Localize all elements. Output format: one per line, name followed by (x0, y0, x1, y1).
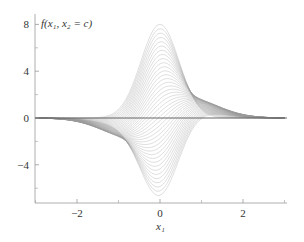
series-curve (36, 112, 285, 183)
series-curve (36, 114, 285, 195)
series-curve (36, 103, 285, 142)
chart-title: f(x₁, x₂ = c) (41, 17, 92, 30)
y-tick-label: 4 (24, 65, 30, 77)
series-curve (36, 59, 285, 125)
series-curve (36, 33, 285, 119)
series-curve (36, 24, 285, 118)
y-tick-label: 0 (24, 112, 30, 124)
y-tick-label: −4 (17, 159, 29, 171)
series-curve (36, 113, 285, 187)
series-curve (36, 29, 285, 119)
series-curve (36, 55, 285, 124)
series-curve (36, 89, 285, 132)
series-curve (36, 106, 285, 155)
series-curve (36, 86, 285, 131)
series-curve (36, 82, 285, 130)
x-tick-label: 2 (240, 207, 246, 219)
x-axis-label: x₁ (155, 220, 165, 232)
series-curve (36, 79, 285, 130)
series-curve (36, 92, 285, 133)
series-curve (36, 95, 285, 134)
series-curve (36, 104, 285, 148)
x-tick-label: 0 (157, 207, 163, 219)
series-curve (36, 107, 285, 159)
series-curve (36, 111, 285, 179)
axes (35, 14, 287, 203)
curve-family (36, 24, 285, 195)
x-tick-label: −2 (71, 207, 83, 219)
y-tick-label: 8 (24, 18, 30, 30)
chart: −202−4048 f(x₁, x₂ = c) x₁ (0, 0, 304, 242)
series-curve (36, 103, 285, 144)
series-curve (36, 46, 285, 122)
